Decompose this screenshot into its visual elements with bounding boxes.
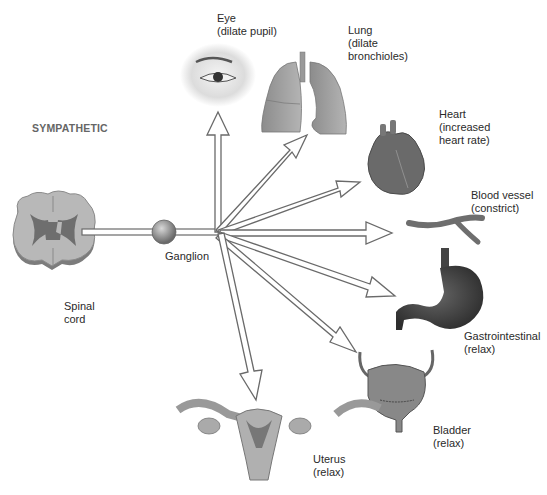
label-bladder: Bladder (relax) (433, 424, 471, 450)
stomach-icon (396, 248, 483, 330)
lung-icon (262, 52, 347, 134)
postganglionic-arrows (207, 112, 395, 400)
blood-vessel-icon (409, 218, 482, 243)
ganglion-icon (152, 220, 176, 244)
uterus-icon (178, 403, 380, 480)
eye-icon (180, 43, 256, 107)
label-lung: Lung (dilate bronchioles) (348, 24, 408, 63)
label-blood-vessel: Blood vessel (constrict) (471, 189, 533, 215)
label-eye: Eye (dilate pupil) (217, 12, 277, 38)
heart-icon (368, 120, 425, 194)
bladder-icon (360, 350, 433, 432)
diagram-title: SYMPATHETIC (32, 122, 108, 134)
label-heart: Heart (increased heart rate) (439, 108, 490, 147)
sympathetic-diagram (0, 0, 547, 495)
label-gastrointestinal: Gastrointestinal (relax) (464, 330, 540, 356)
arrow-eye (207, 112, 229, 232)
label-spinal-cord: Spinal cord (64, 300, 95, 326)
label-ganglion: Ganglion (165, 250, 209, 263)
label-uterus: Uterus (relax) (313, 453, 345, 479)
